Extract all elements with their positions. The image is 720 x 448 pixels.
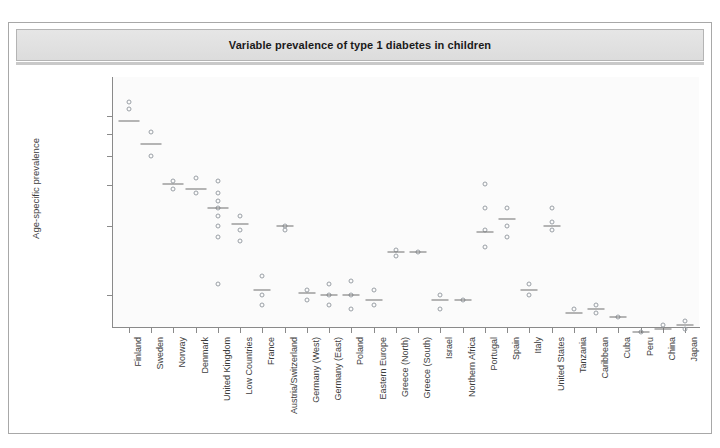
- mean-marker: [588, 308, 605, 309]
- x-axis-line: [112, 327, 700, 328]
- x-tick-label: Denmark: [200, 337, 210, 374]
- data-point: [393, 254, 398, 259]
- data-point: [349, 306, 354, 311]
- data-point: [238, 227, 243, 232]
- x-tick-mark: [151, 328, 152, 333]
- data-point: [594, 311, 599, 316]
- data-point: [149, 129, 154, 134]
- mean-marker: [321, 295, 338, 296]
- x-tick-label: Peru: [645, 337, 655, 356]
- x-tick-label: Cuba: [622, 337, 632, 359]
- data-point: [193, 175, 198, 180]
- x-tick-mark: [507, 328, 508, 333]
- mean-marker: [141, 144, 162, 145]
- x-tick-label: Northern Africa: [467, 337, 477, 397]
- data-point: [505, 223, 510, 228]
- x-tick-mark: [262, 328, 263, 333]
- x-tick-mark: [440, 328, 441, 333]
- mean-marker: [677, 325, 694, 326]
- data-point: [571, 306, 576, 311]
- data-point: [438, 293, 443, 298]
- y-tick-mark: [107, 226, 113, 227]
- x-tick-mark: [618, 328, 619, 333]
- x-tick-label: Low Countries: [244, 337, 254, 395]
- data-point: [215, 282, 220, 287]
- plot-area: [113, 77, 699, 327]
- x-tick-mark: [596, 328, 597, 333]
- y-axis-line: [112, 77, 113, 328]
- x-tick-label: Germany (West): [311, 337, 321, 403]
- data-point: [549, 227, 554, 232]
- data-point: [594, 302, 599, 307]
- mean-marker: [387, 251, 404, 252]
- data-point: [327, 282, 332, 287]
- x-tick-mark: [485, 328, 486, 333]
- data-point: [260, 302, 265, 307]
- mean-marker: [298, 292, 315, 293]
- mean-marker: [410, 251, 427, 252]
- data-point: [482, 206, 487, 211]
- mean-marker: [163, 184, 184, 185]
- mean-marker: [499, 219, 516, 220]
- data-point: [238, 214, 243, 219]
- data-point: [215, 179, 220, 184]
- mean-marker: [185, 188, 206, 189]
- x-tick-label: Norway: [177, 337, 187, 368]
- data-point: [349, 279, 354, 284]
- y-tick-mark: [107, 116, 113, 117]
- data-point: [527, 282, 532, 287]
- data-point: [527, 293, 532, 298]
- x-tick-label: Finland: [133, 337, 143, 367]
- data-point: [549, 219, 554, 224]
- x-tick-mark: [418, 328, 419, 333]
- mean-marker: [454, 299, 471, 300]
- data-point: [660, 323, 665, 328]
- data-point: [215, 190, 220, 195]
- data-point: [482, 182, 487, 187]
- mean-marker: [610, 317, 627, 318]
- mean-marker: [365, 299, 382, 300]
- data-point: [215, 198, 220, 203]
- x-tick-mark: [351, 328, 352, 333]
- data-point: [215, 223, 220, 228]
- mean-marker: [207, 208, 228, 209]
- y-tick-mark: [107, 134, 113, 135]
- data-point: [304, 297, 309, 302]
- x-tick-mark: [574, 328, 575, 333]
- title-underline: [16, 62, 704, 65]
- mean-marker: [654, 328, 671, 329]
- x-tick-label: Germany (East): [333, 337, 343, 401]
- x-tick-mark: [529, 328, 530, 333]
- data-point: [149, 154, 154, 159]
- x-tick-label: Sweden: [155, 337, 165, 370]
- data-point: [238, 238, 243, 243]
- x-tick-label: China: [667, 337, 677, 361]
- x-tick-label: Portugal: [489, 337, 499, 371]
- x-tick-label: Italy: [533, 337, 543, 354]
- x-tick-mark: [552, 328, 553, 333]
- mean-marker: [476, 231, 493, 232]
- x-tick-mark: [218, 328, 219, 333]
- mean-marker: [543, 225, 560, 226]
- data-point: [282, 227, 287, 232]
- x-tick-mark: [196, 328, 197, 333]
- x-tick-label: Japan: [689, 337, 699, 362]
- y-tick-mark: [107, 156, 113, 157]
- mean-marker: [521, 289, 538, 290]
- data-point: [683, 319, 688, 324]
- x-tick-label: Greece (South): [422, 337, 432, 399]
- page-title: Variable prevalence of type 1 diabetes i…: [229, 39, 491, 51]
- x-tick-label: Spain: [511, 337, 521, 360]
- x-tick-label: France: [266, 337, 276, 365]
- mean-marker: [632, 332, 649, 333]
- data-point: [193, 190, 198, 195]
- data-point: [215, 235, 220, 240]
- data-point: [505, 235, 510, 240]
- data-point: [260, 274, 265, 279]
- mean-marker: [432, 299, 449, 300]
- y-axis-tick-group: 1/1671/2001/2501/3331/5001/1000: [9, 23, 105, 448]
- x-tick-label: Eastern Europe: [378, 337, 388, 400]
- data-point: [371, 302, 376, 307]
- x-tick-mark: [307, 328, 308, 333]
- data-point: [171, 186, 176, 191]
